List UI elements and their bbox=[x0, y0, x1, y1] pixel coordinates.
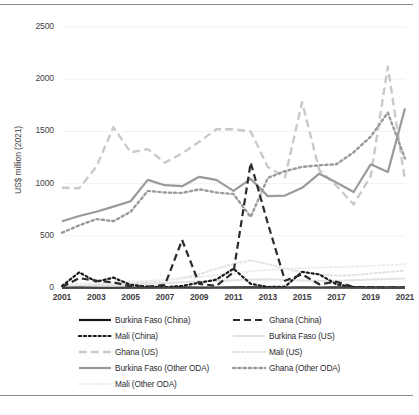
x-axis-tick-label: 2001 bbox=[46, 292, 78, 302]
legend-item[interactable]: Mali (Other ODA) bbox=[78, 377, 177, 391]
figure-bottom-rule bbox=[0, 395, 413, 396]
x-axis-tick-label: 2005 bbox=[115, 292, 147, 302]
legend-label: Burkina Faso (China) bbox=[115, 315, 190, 325]
legend-item[interactable]: Ghana (China) bbox=[232, 313, 321, 327]
x-axis-tick-label: 2021 bbox=[389, 292, 419, 302]
y-axis-tick-label: 2000 bbox=[20, 73, 54, 83]
legend-label: Burkina Faso (Other ODA) bbox=[115, 363, 209, 373]
chart-plot-area: US$ million (2021) 050010001500200025002… bbox=[0, 5, 413, 307]
legend-line-swatch bbox=[232, 331, 266, 341]
legend-label: Ghana (US) bbox=[115, 347, 158, 357]
x-axis-tick-label: 2015 bbox=[286, 292, 318, 302]
y-axis-tick-label: 2500 bbox=[20, 21, 54, 31]
series-line bbox=[62, 278, 405, 286]
series-line bbox=[62, 163, 405, 288]
x-axis-tick-label: 2013 bbox=[252, 292, 284, 302]
legend-label: Mali (China) bbox=[115, 331, 158, 341]
legend-line-swatch bbox=[232, 315, 266, 325]
y-axis-tick-label: 1500 bbox=[20, 125, 54, 135]
legend-line-swatch bbox=[78, 315, 112, 325]
y-axis-tick-label: 0 bbox=[20, 282, 54, 292]
legend-line-swatch bbox=[78, 379, 112, 389]
legend-line-swatch bbox=[78, 363, 112, 373]
legend-label: Ghana (China) bbox=[269, 315, 321, 325]
legend-line-swatch bbox=[232, 347, 266, 357]
line-chart-svg bbox=[0, 5, 413, 307]
x-axis-tick-label: 2011 bbox=[218, 292, 250, 302]
legend-line-swatch bbox=[232, 363, 266, 373]
legend-item[interactable]: Mali (China) bbox=[78, 329, 158, 343]
legend-line-swatch bbox=[78, 347, 112, 357]
series-line bbox=[62, 113, 405, 233]
legend-item[interactable]: Burkina Faso (China) bbox=[78, 313, 190, 327]
legend-item[interactable]: Burkina Faso (US) bbox=[232, 329, 335, 343]
legend-label: Mali (Other ODA) bbox=[115, 379, 177, 389]
x-axis-tick-label: 2003 bbox=[80, 292, 112, 302]
legend-item[interactable]: Mali (US) bbox=[232, 345, 302, 359]
x-axis-tick-label: 2019 bbox=[355, 292, 387, 302]
x-axis-tick-label: 2017 bbox=[320, 292, 352, 302]
chart-legend: Burkina Faso (China)Ghana (China)Mali (C… bbox=[0, 307, 413, 393]
y-axis-tick-label: 1000 bbox=[20, 178, 54, 188]
legend-line-swatch bbox=[78, 331, 112, 341]
legend-label: Mali (US) bbox=[269, 347, 302, 357]
legend-label: Ghana (Other ODA) bbox=[269, 363, 340, 373]
legend-label: Burkina Faso (US) bbox=[269, 331, 335, 341]
x-axis-tick-label: 2009 bbox=[183, 292, 215, 302]
legend-item[interactable]: Burkina Faso (Other ODA) bbox=[78, 361, 209, 375]
x-axis-tick-label: 2007 bbox=[149, 292, 181, 302]
legend-item[interactable]: Ghana (US) bbox=[78, 345, 158, 359]
y-axis-tick-label: 500 bbox=[20, 230, 54, 240]
legend-item[interactable]: Ghana (Other ODA) bbox=[232, 361, 340, 375]
